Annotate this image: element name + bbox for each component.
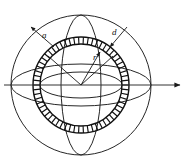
hatch-tick [117,62,123,65]
hatch-tick [74,126,75,133]
hatch-tick [103,44,107,50]
hatch-tick [91,125,93,132]
hatch-tick [112,112,117,117]
label-inner-radius: r [93,52,97,62]
hatch-tick [60,122,63,128]
sphere-shell-diagram: a d r [0,0,189,166]
hatch-tick [122,89,129,90]
hatch-tick [35,71,42,73]
hatch-tick [52,117,56,123]
hatch-tick [109,115,114,120]
hatch-tick [87,126,88,133]
hatch-tick [56,44,60,50]
hatch-tick [39,105,45,108]
label-outer-radius: a [42,30,47,40]
hatch-tick [103,120,107,126]
hatch-tick [48,50,53,55]
hatch-tick [106,47,110,53]
hatch-tick [115,58,121,62]
hatch-tick [122,80,129,81]
hatch-tick [109,50,114,55]
hatch-tick [121,75,128,76]
hatch-tick [34,93,41,94]
hatch-tick [33,80,40,81]
label-shell-thickness: d [112,27,117,37]
hatch-tick [91,39,93,46]
figure-container: a d r [0,0,189,166]
hatch-tick [115,108,121,112]
hatch-tick [69,39,71,46]
hatch-tick [74,38,75,45]
hatch-tick [120,97,127,99]
hatch-tick [39,62,45,65]
hatch-tick [56,120,60,126]
hatch-tick [60,42,63,48]
hatch-tick [87,38,88,45]
hatch-tick [45,112,50,117]
leader-r-right [81,56,113,85]
hatch-tick [42,58,48,62]
hatch-tick [34,75,41,76]
hatch-tick [48,115,53,120]
hatch-tick [42,108,48,112]
hatch-tick [117,105,123,108]
hatch-tick [121,93,128,94]
leader-r-left [48,56,81,85]
hatch-tick [45,54,50,59]
hatch-tick [33,89,40,90]
hatch-tick [120,71,127,73]
hatch-tick [52,47,56,53]
hatch-tick [69,125,71,132]
hatch-tick [106,117,110,123]
hatch-tick [99,42,102,48]
leader-r [81,52,100,85]
hatch-tick [99,122,102,128]
hatch-tick [35,97,42,99]
